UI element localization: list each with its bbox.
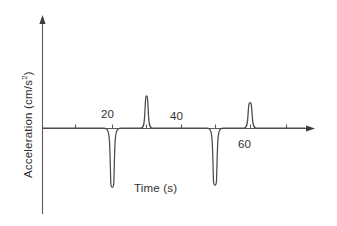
y-axis-title-text: Acceleration (cm/s (22, 80, 34, 178)
acceleration-time-chart: 20 40 60 Time (s) Acceleration (cm/s2) (0, 0, 337, 226)
y-axis-title: Acceleration (cm/s2) (22, 71, 34, 178)
x-tick-label-20: 20 (101, 108, 114, 120)
y-axis-title-exponent: 2 (20, 75, 29, 80)
x-tick-label-40: 40 (170, 110, 183, 122)
x-axis-arrow-icon (306, 125, 315, 131)
y-axis-title-paren: ) (22, 71, 34, 75)
y-axis-arrow-icon (39, 15, 45, 24)
x-axis-title: Time (s) (134, 182, 177, 194)
x-tick-label-60: 60 (238, 138, 251, 150)
